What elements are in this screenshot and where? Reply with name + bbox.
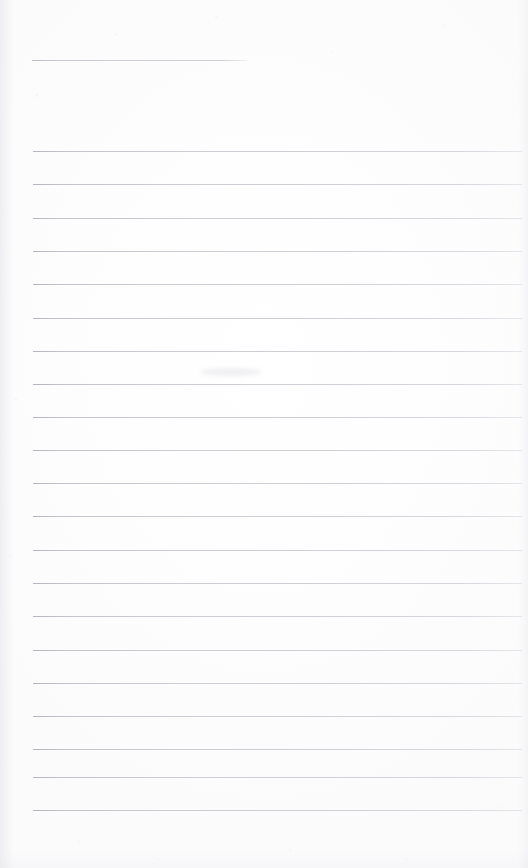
rule-line — [33, 716, 522, 717]
paper-texture-layer — [0, 0, 528, 868]
rule-line — [33, 650, 522, 651]
scan-noise-layer — [0, 0, 528, 868]
rule-line — [33, 483, 522, 484]
rule-line — [33, 417, 522, 418]
rule-line — [33, 777, 522, 778]
rule-line — [33, 284, 522, 285]
rule-line — [33, 749, 522, 750]
scan-smudge — [200, 368, 262, 376]
scan-vignette-layer — [0, 0, 528, 868]
rule-line — [33, 450, 522, 451]
rule-line — [33, 583, 522, 584]
rule-line — [33, 516, 522, 517]
rule-line — [33, 151, 522, 152]
header-rule-line — [32, 60, 247, 61]
rule-line — [33, 218, 522, 219]
rule-line — [33, 810, 522, 811]
rule-line — [33, 351, 522, 352]
rule-line — [33, 616, 522, 617]
rule-line — [33, 384, 522, 385]
rule-line — [33, 683, 522, 684]
rule-line — [33, 550, 522, 551]
rule-line — [33, 184, 522, 185]
scanned-page — [0, 0, 528, 868]
rule-line — [33, 318, 522, 319]
rule-line — [33, 251, 522, 252]
